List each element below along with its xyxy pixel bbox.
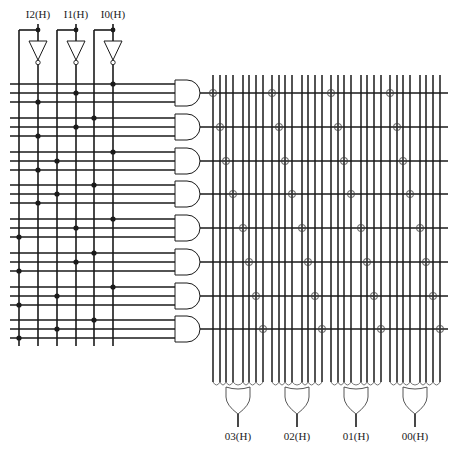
or-input-curve [403, 382, 410, 385]
or-input-curve [426, 382, 433, 385]
and-gate-icon [175, 114, 200, 140]
connection-dot-icon [35, 99, 40, 104]
inverter-bubble-icon [36, 60, 40, 64]
or-input-curve [410, 382, 420, 385]
or-gate-icon [403, 387, 427, 414]
connection-dot-icon [91, 317, 96, 322]
and-gate-icon [175, 80, 200, 106]
connection-dot-icon [54, 158, 59, 163]
and-gate-icon [175, 249, 200, 275]
connection-dot-icon [16, 302, 21, 307]
connection-dot-icon [16, 268, 21, 273]
pla-circuit-diagram [0, 0, 461, 453]
or-input-curve [249, 382, 256, 385]
or-input-curve [213, 382, 220, 385]
and-gate-icon [175, 181, 200, 207]
or-input-curve [390, 382, 397, 385]
or-input-curve [351, 382, 361, 385]
output-label-o1: 01(H) [343, 430, 369, 442]
connection-dot-icon [110, 284, 115, 289]
or-input-curve [302, 382, 308, 385]
or-input-curve [338, 382, 344, 385]
output-label-o0: 00(H) [402, 430, 428, 442]
and-gate-icon [175, 283, 200, 309]
or-input-curve [308, 382, 315, 385]
or-input-curve [315, 382, 322, 385]
or-input-curve [292, 382, 302, 385]
connection-dot-icon [16, 234, 21, 239]
inverter-icon [67, 41, 85, 60]
connection-dot-icon [35, 167, 40, 172]
or-plane [209, 75, 443, 427]
connection-dot-icon [35, 133, 40, 138]
connection-dot-icon [73, 259, 78, 264]
or-gate-icon [285, 387, 309, 414]
or-gate-icon [344, 387, 368, 414]
or-input-curve [285, 382, 292, 385]
connection-dot-icon [91, 115, 96, 120]
inverter-bubble-icon [74, 60, 78, 64]
connection-dot-icon [16, 335, 21, 340]
or-input-curve [272, 382, 279, 385]
junction-dot-icon [36, 28, 41, 33]
or-input-curve [331, 382, 338, 385]
or-input-curve [226, 382, 233, 385]
and-gate-icon [175, 148, 200, 174]
or-input-curve [220, 382, 226, 385]
or-input-curve [397, 382, 403, 385]
or-input-curve [361, 382, 367, 385]
inverter-icon [104, 41, 122, 60]
connection-dot-icon [73, 225, 78, 230]
connection-dot-icon [35, 200, 40, 205]
connection-dot-icon [91, 250, 96, 255]
and-gate-icon [175, 316, 200, 342]
or-input-curve [374, 382, 381, 385]
or-input-curve [243, 382, 249, 385]
input-label-i2: I2(H) [26, 8, 50, 20]
connection-dot-icon [54, 326, 59, 331]
connection-dot-icon [73, 90, 78, 95]
connection-dot-icon [110, 216, 115, 221]
connection-dot-icon [54, 191, 59, 196]
connection-dot-icon [73, 124, 78, 129]
inverter-bubble-icon [111, 60, 115, 64]
and-gate-icon [175, 215, 200, 241]
or-input-curve [433, 382, 440, 385]
inverter-icon [29, 41, 47, 60]
or-input-curve [367, 382, 374, 385]
connection-dot-icon [91, 182, 96, 187]
output-label-o2: 02(H) [284, 430, 310, 442]
junction-dot-icon [111, 28, 116, 33]
or-input-curve [279, 382, 285, 385]
input-label-i0: I0(H) [101, 8, 125, 20]
junction-dot-icon [74, 28, 79, 33]
or-gate-icon [226, 387, 250, 414]
connection-dot-icon [54, 293, 59, 298]
or-input-curve [233, 382, 243, 385]
or-input-curve [344, 382, 351, 385]
connection-dot-icon [110, 81, 115, 86]
output-label-o3: 03(H) [225, 430, 251, 442]
input-label-i1: I1(H) [64, 8, 88, 20]
or-input-curve [420, 382, 426, 385]
or-input-curve [256, 382, 263, 385]
connection-dot-icon [110, 149, 115, 154]
